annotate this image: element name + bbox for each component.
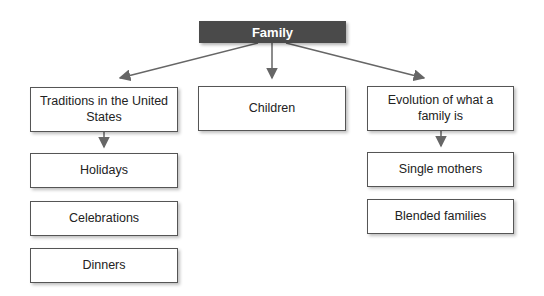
node-label: Single mothers [399, 162, 482, 178]
node-label: Blended families [395, 209, 487, 225]
root-label: Family [252, 25, 293, 40]
node-holidays: Holidays [30, 153, 178, 188]
node-label: Celebrations [69, 211, 139, 227]
node-dinners: Dinners [30, 248, 178, 283]
node-blended-families: Blended families [367, 199, 514, 234]
node-children: Children [198, 86, 346, 131]
node-single-mothers: Single mothers [367, 152, 514, 187]
node-traditions: Traditions in the United States [30, 87, 178, 132]
node-label: Traditions in the United States [37, 94, 171, 125]
node-label: Children [249, 101, 296, 117]
node-label: Holidays [80, 163, 128, 179]
node-label: Dinners [82, 258, 125, 274]
root-node-family: Family [199, 21, 346, 43]
node-evolution: Evolution of what a family is [367, 86, 514, 131]
node-celebrations: Celebrations [30, 201, 178, 236]
node-label: Evolution of what a family is [374, 93, 507, 124]
